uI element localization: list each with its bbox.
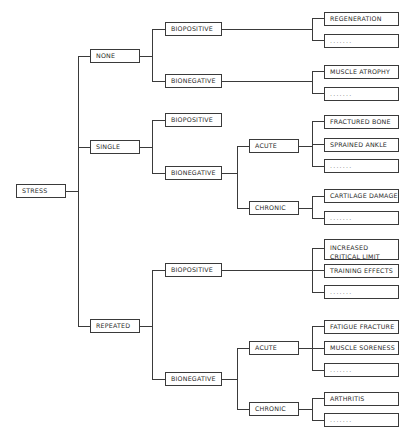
connector <box>312 420 324 421</box>
connector <box>312 398 324 399</box>
node-label: BIONEGATIVE <box>171 77 216 84</box>
leaf-cartilage-damage: CARTILAGE DAMAGE <box>324 189 399 203</box>
connector <box>152 81 165 82</box>
node-single-acute: ACUTE <box>249 139 299 153</box>
node-label: FATIGUE FRACTURE <box>330 323 394 330</box>
connector <box>222 379 237 380</box>
node-label-line: CRITICAL LIMIT <box>330 252 398 261</box>
connector <box>78 56 79 327</box>
leaf-muscle-soreness: MUSCLE SORENESS <box>324 341 399 355</box>
leaf-ellipsis: ....... <box>324 87 399 101</box>
leaf-ellipsis: ....... <box>324 34 399 48</box>
node-label: CARTILAGE DAMAGE <box>330 192 398 199</box>
connector <box>152 29 153 82</box>
connector <box>237 348 238 410</box>
node-none: NONE <box>90 49 140 63</box>
node-label: CHRONIC <box>255 405 286 412</box>
node-repeated: REPEATED <box>90 319 140 333</box>
node-single-chronic: CHRONIC <box>249 201 299 215</box>
node-label: ....... <box>330 37 352 44</box>
connector <box>312 196 324 197</box>
node-label: BIOPOSITIVE <box>171 25 213 32</box>
node-label: FRACTURED BONE <box>330 118 391 125</box>
node-label: ....... <box>330 162 352 169</box>
node-stress: STRESS <box>16 184 66 198</box>
stress-classification-diagram: STRESS NONE SINGLE REPEATED BIOPOSITIVE … <box>0 0 414 440</box>
connector <box>312 18 324 19</box>
connector <box>312 144 324 145</box>
connector <box>312 71 313 93</box>
node-repeated-acute: ACUTE <box>249 341 299 355</box>
node-label: SPRAINED ANKLE <box>330 141 387 148</box>
node-label: BIONEGATIVE <box>171 375 216 382</box>
connector <box>312 348 324 349</box>
node-label: STRESS <box>22 187 47 194</box>
leaf-ellipsis: ....... <box>324 363 399 377</box>
connector <box>312 18 313 40</box>
connector <box>222 173 237 174</box>
connector <box>312 121 324 122</box>
leaf-fatigue-fracture: FATIGUE FRACTURE <box>324 320 399 334</box>
node-label: ....... <box>330 90 352 97</box>
connector <box>299 348 312 349</box>
node-label: ....... <box>330 214 352 221</box>
node-label: TRAINING EFFECTS <box>330 267 393 274</box>
node-label: MUSCLE SORENESS <box>330 344 395 351</box>
node-none-bionegative: BIONEGATIVE <box>165 74 222 88</box>
connector <box>78 326 90 327</box>
connector <box>140 147 152 148</box>
node-label: ....... <box>330 416 352 423</box>
leaf-ellipsis: ....... <box>324 285 399 299</box>
connector <box>312 398 313 421</box>
node-none-biopositive: BIOPOSITIVE <box>165 22 222 36</box>
node-label: REPEATED <box>96 322 130 329</box>
connector <box>152 379 165 380</box>
node-repeated-bionegative: BIONEGATIVE <box>165 372 222 386</box>
node-label: ....... <box>330 366 352 373</box>
connector <box>140 326 152 327</box>
connector <box>140 56 152 57</box>
leaf-ellipsis: ....... <box>324 211 399 225</box>
node-label: MUSCLE ATROPHY <box>330 68 390 75</box>
connector <box>299 146 312 147</box>
node-label: NONE <box>96 52 115 59</box>
connector <box>222 29 312 30</box>
connector <box>312 71 324 72</box>
connector <box>312 292 324 293</box>
connector <box>299 208 312 209</box>
connector <box>237 348 249 349</box>
connector <box>222 270 312 271</box>
leaf-ellipsis: ....... <box>324 159 399 173</box>
connector <box>78 56 90 57</box>
node-label: BIOPOSITIVE <box>171 116 213 123</box>
node-label: ACUTE <box>255 344 277 351</box>
connector <box>312 370 324 371</box>
node-label: SINGLE <box>96 143 120 150</box>
leaf-arthritis: ARTHRITIS <box>324 392 399 406</box>
node-label: BIOPOSITIVE <box>171 266 213 273</box>
connector <box>237 146 238 209</box>
leaf-fractured-bone: FRACTURED BONE <box>324 115 399 129</box>
leaf-ellipsis: ....... <box>324 413 399 427</box>
connector <box>152 173 165 174</box>
node-label: CHRONIC <box>255 204 286 211</box>
node-repeated-biopositive: BIOPOSITIVE <box>165 263 222 277</box>
leaf-training-effects: TRAINING EFFECTS <box>324 264 399 278</box>
connector <box>152 29 165 30</box>
leaf-sprained-ankle: SPRAINED ANKLE <box>324 138 399 152</box>
connector <box>312 218 324 219</box>
connector <box>312 93 324 94</box>
connector <box>237 146 249 147</box>
connector <box>78 147 90 148</box>
node-label: ACUTE <box>255 142 277 149</box>
connector <box>152 270 165 271</box>
node-label: BIONEGATIVE <box>171 169 216 176</box>
connector <box>312 40 324 41</box>
node-single: SINGLE <box>90 140 140 154</box>
node-label-line: INCREASED <box>330 243 398 252</box>
connector <box>299 409 312 410</box>
node-label: ....... <box>330 288 352 295</box>
connector <box>152 120 165 121</box>
connector <box>312 326 324 327</box>
leaf-increased-critical-limit: INCREASED CRITICAL LIMIT <box>324 239 399 260</box>
